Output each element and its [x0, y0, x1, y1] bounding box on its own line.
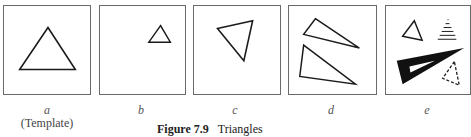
panel-e-label: e — [407, 103, 447, 118]
panel-a — [3, 5, 91, 95]
figure-caption: Figure 7.9 Triangles — [157, 122, 263, 137]
scalene-triangles-icon — [289, 6, 376, 94]
panel-c-label: c — [215, 103, 255, 118]
equilateral-triangle-icon — [4, 6, 90, 94]
panel-b — [99, 5, 186, 95]
panel-d — [288, 5, 377, 95]
panel-c — [193, 5, 281, 95]
panel-d-label: d — [311, 103, 351, 118]
panel-e — [385, 5, 471, 95]
panel-a-sublabel: (Template) — [7, 116, 87, 131]
panel-b-label: b — [121, 103, 161, 118]
rotated-triangle-icon — [194, 6, 280, 94]
figure-caption-text: Triangles — [218, 122, 263, 136]
mixed-triangles-icon — [386, 6, 470, 94]
figure-caption-number: Figure 7.9 — [157, 122, 209, 136]
small-triangle-icon — [100, 6, 185, 94]
